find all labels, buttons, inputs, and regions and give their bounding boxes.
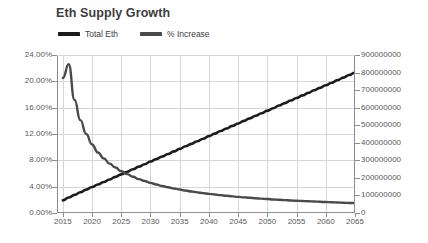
chart-container: Eth Supply Growth Total Eth % Increase 0…: [0, 0, 428, 243]
x-tick-label: 2020: [83, 218, 101, 226]
x-tick-label: 2050: [258, 218, 276, 226]
x-tick-label: 2035: [171, 218, 189, 226]
x-tick-mark: [92, 213, 93, 217]
x-tick-label: 2015: [54, 218, 72, 226]
x-tick-mark: [180, 213, 181, 217]
series-line-total-eth: [63, 73, 355, 201]
plot-svg: [57, 55, 355, 213]
x-tick-label: 2065: [346, 218, 364, 226]
x-tick-label: 2040: [200, 218, 218, 226]
x-tick-label: 2045: [229, 218, 247, 226]
x-tick-label: 2025: [112, 218, 130, 226]
x-tick-mark: [63, 213, 64, 217]
x-tick-mark: [297, 213, 298, 217]
x-tick-mark: [121, 213, 122, 217]
x-tick-label: 2030: [142, 218, 160, 226]
plot-area: [57, 55, 355, 213]
x-tick-mark: [267, 213, 268, 217]
gridlines: [57, 55, 355, 213]
x-tick-mark: [326, 213, 327, 217]
x-tick-mark: [355, 213, 356, 217]
x-tick-mark: [238, 213, 239, 217]
x-tick-mark: [209, 213, 210, 217]
series-lines: [63, 64, 355, 203]
x-tick-label: 2060: [317, 218, 335, 226]
x-tick-mark: [150, 213, 151, 217]
x-tick-label: 2055: [288, 218, 306, 226]
